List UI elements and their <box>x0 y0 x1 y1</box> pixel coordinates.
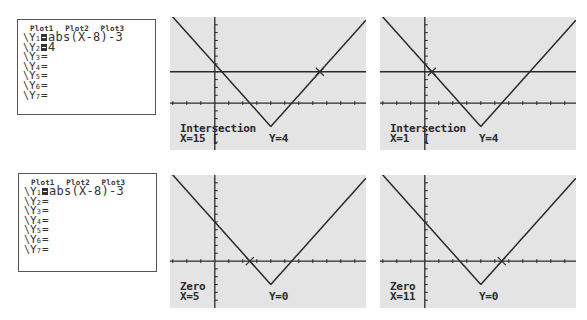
selected-equals-icon[interactable] <box>41 34 47 41</box>
function-index: 6 <box>36 83 40 91</box>
graph-screen-zero-left[interactable]: Zero X=5 Y=0 <box>170 175 366 308</box>
function-index: 7 <box>37 247 41 255</box>
y-equals-editor-2: Plot1 Plot2 Plot3 \Y1abs(X-8)-3\Y2=\Y3=\… <box>18 173 157 272</box>
function-index: 1 <box>36 35 40 43</box>
selected-equals-icon[interactable] <box>42 188 48 195</box>
function-expression[interactable]: 4 <box>48 40 56 54</box>
function-row-y1[interactable]: \Y1abs(X-8)-3 <box>23 33 155 43</box>
function-plot <box>170 175 366 284</box>
y-value-label: Y=0 <box>479 292 498 302</box>
y-value-label: Y=4 <box>479 134 498 144</box>
graph-screen-intersection-right[interactable]: Intersection X=15 [ Y=4 <box>170 17 366 150</box>
x-value-label: X=5 <box>180 292 199 302</box>
graph-screen-intersection-left[interactable]: Intersection X=1 [ Y=4 <box>380 17 576 150</box>
function-name: Y <box>30 243 37 256</box>
function-index: 6 <box>37 237 41 245</box>
x-value-label: X=15 [ <box>180 134 218 144</box>
selected-equals-icon[interactable] <box>41 44 47 51</box>
function-row-y7[interactable]: \Y7= <box>24 245 156 255</box>
y-equals-editor-1: Plot1 Plot2 Plot3 \Y1abs(X-8)-3\Y24\Y3=\… <box>17 19 156 115</box>
function-index: 7 <box>36 93 40 101</box>
graph-screen-zero-right[interactable]: Zero X=11 Y=0 <box>380 175 576 308</box>
cursor-bracket: [ <box>212 132 218 145</box>
function-list: \Y1abs(X-8)-3\Y24\Y3=\Y4=\Y5=\Y6=\Y7= <box>23 33 155 100</box>
function-row-y7[interactable]: \Y7= <box>23 91 155 101</box>
x-value-label: X=11 <box>390 292 415 302</box>
y-value-label: Y=4 <box>269 134 288 144</box>
equals-sign[interactable]: = <box>41 89 48 102</box>
function-list: \Y1abs(X-8)-3\Y2=\Y3=\Y4=\Y5=\Y6=\Y7= <box>24 187 156 254</box>
function-plot <box>380 175 576 284</box>
function-index: 3 <box>37 208 41 216</box>
x-value-label: X=1 [ <box>390 134 430 144</box>
function-index: 1 <box>37 189 41 197</box>
cursor-bracket: [ <box>423 132 429 145</box>
function-expression[interactable]: abs(X-8)-3 <box>48 30 123 44</box>
y-value-label: Y=0 <box>269 292 288 302</box>
equals-sign[interactable]: = <box>42 243 49 256</box>
function-expression[interactable]: abs(X-8)-3 <box>49 184 124 198</box>
function-index: 3 <box>36 54 40 62</box>
function-name: Y <box>29 89 36 102</box>
